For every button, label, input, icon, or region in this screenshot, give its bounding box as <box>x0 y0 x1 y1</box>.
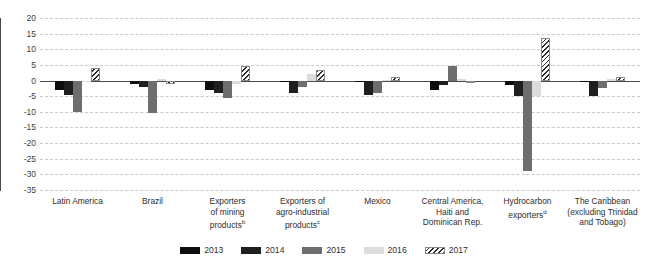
y-tick-mark <box>0 65 1 66</box>
bar-2016 <box>157 79 165 81</box>
bar-2016 <box>607 79 615 81</box>
y-tick-mark <box>0 18 1 19</box>
y-tick-label: 20 <box>2 14 36 23</box>
bar-group <box>340 18 415 190</box>
legend-item[interactable]: 2014 <box>241 246 284 255</box>
bar-2017 <box>91 68 99 81</box>
bar-group <box>190 18 265 190</box>
y-tick-mark <box>0 96 1 97</box>
bar-2015 <box>73 81 81 112</box>
bar-2017 <box>391 77 399 80</box>
x-category-label: Exporters ofagro-industrialproductsc <box>265 196 340 230</box>
bar-2016 <box>82 81 90 82</box>
legend-swatch-2014-icon <box>241 247 261 254</box>
bar-2014 <box>139 81 147 87</box>
bar-group <box>490 18 565 190</box>
bar-2016 <box>232 81 240 84</box>
bar-group <box>415 18 490 190</box>
bar-2015 <box>598 81 606 89</box>
legend-swatch-2015-icon <box>302 247 322 254</box>
y-tick-label: -25 <box>2 154 36 163</box>
bar-2013 <box>580 81 588 83</box>
chart-legend: 20132014201520162017 <box>0 246 648 255</box>
x-category-label: Exportersof miningproductsb <box>190 196 265 230</box>
y-tick-label: 5 <box>2 61 36 70</box>
bar-2015 <box>148 81 156 114</box>
y-tick-mark <box>0 143 1 144</box>
y-tick-label: 15 <box>2 29 36 38</box>
bar-2014 <box>439 81 447 86</box>
y-tick-label: -5 <box>2 92 36 101</box>
bar-2014 <box>364 81 372 95</box>
bar-2013 <box>205 81 213 90</box>
bar-2016 <box>532 81 540 97</box>
bar-2013 <box>355 81 363 82</box>
bar-2013 <box>55 81 63 90</box>
bar-2014 <box>514 81 522 97</box>
bar-2016 <box>457 79 465 81</box>
bar-2016 <box>307 74 315 80</box>
bar-2014 <box>64 81 72 95</box>
bar-2017 <box>241 66 249 80</box>
x-category-label: Hydrocarbonexportersd <box>490 196 565 220</box>
x-category-label: Mexico <box>340 196 415 207</box>
y-axis-tick-labels: 20151050-5-10-15-20-25-30-35 <box>0 18 36 190</box>
bar-2017 <box>316 70 324 81</box>
bar-group <box>265 18 340 190</box>
x-category-label: The Caribbean(excluding Trinidadand Toba… <box>565 196 640 228</box>
y-tick-label: -15 <box>2 123 36 132</box>
y-tick-mark <box>0 127 1 128</box>
bar-2015 <box>373 81 381 94</box>
bar-2015 <box>223 81 231 98</box>
bar-2015 <box>298 81 306 87</box>
legend-item[interactable]: 2017 <box>425 246 468 255</box>
y-tick-label: 0 <box>2 76 36 85</box>
bar-2013 <box>280 81 288 83</box>
bar-2015 <box>523 81 531 172</box>
legend-label: 2017 <box>449 246 468 255</box>
legend-item[interactable]: 2015 <box>302 246 345 255</box>
legend-swatch-2013-icon <box>180 247 200 254</box>
y-tick-label: -10 <box>2 108 36 117</box>
x-category-label: Brazil <box>115 196 190 207</box>
bar-2013 <box>430 81 438 90</box>
plot-area <box>40 18 640 190</box>
bar-group <box>565 18 640 190</box>
y-tick-mark <box>0 49 1 50</box>
bar-2017 <box>166 81 174 84</box>
x-category-label: Central America,Haiti andDominican Rep. <box>415 196 490 228</box>
y-tick-mark <box>0 34 1 35</box>
legend-swatch-2016-icon <box>364 247 384 254</box>
y-tick-mark <box>0 190 1 191</box>
legend-swatch-2017-icon <box>425 247 445 254</box>
bar-2013 <box>505 81 513 86</box>
y-tick-mark <box>0 159 1 160</box>
x-category-label: Latin America <box>40 196 115 207</box>
bar-2015 <box>448 66 456 80</box>
bar-2017 <box>541 38 549 80</box>
y-tick-label: -20 <box>2 139 36 148</box>
bar-2013 <box>130 81 138 84</box>
bar-2014 <box>289 81 297 94</box>
legend-label: 2013 <box>204 246 223 255</box>
y-axis-line <box>0 18 1 190</box>
bar-2014 <box>589 81 597 97</box>
bar-2014 <box>214 81 222 94</box>
legend-label: 2015 <box>326 246 345 255</box>
bar-2017 <box>466 81 474 83</box>
y-tick-label: 10 <box>2 45 36 54</box>
bar-2016 <box>382 80 390 81</box>
y-tick-label: -35 <box>2 186 36 195</box>
bar-group <box>115 18 190 190</box>
bar-groups <box>40 18 640 190</box>
y-tick-label: -30 <box>2 170 36 179</box>
bar-2017 <box>616 77 624 80</box>
y-tick-mark <box>0 174 1 175</box>
gridline <box>40 190 640 191</box>
legend-item[interactable]: 2013 <box>180 246 223 255</box>
x-axis-category-labels: Latin AmericaBrazilExportersof miningpro… <box>40 196 640 242</box>
y-tick-mark <box>0 112 1 113</box>
chart-page: 20151050-5-10-15-20-25-30-35 Latin Ameri… <box>0 0 648 268</box>
legend-label: 2016 <box>388 246 407 255</box>
legend-item[interactable]: 2016 <box>364 246 407 255</box>
